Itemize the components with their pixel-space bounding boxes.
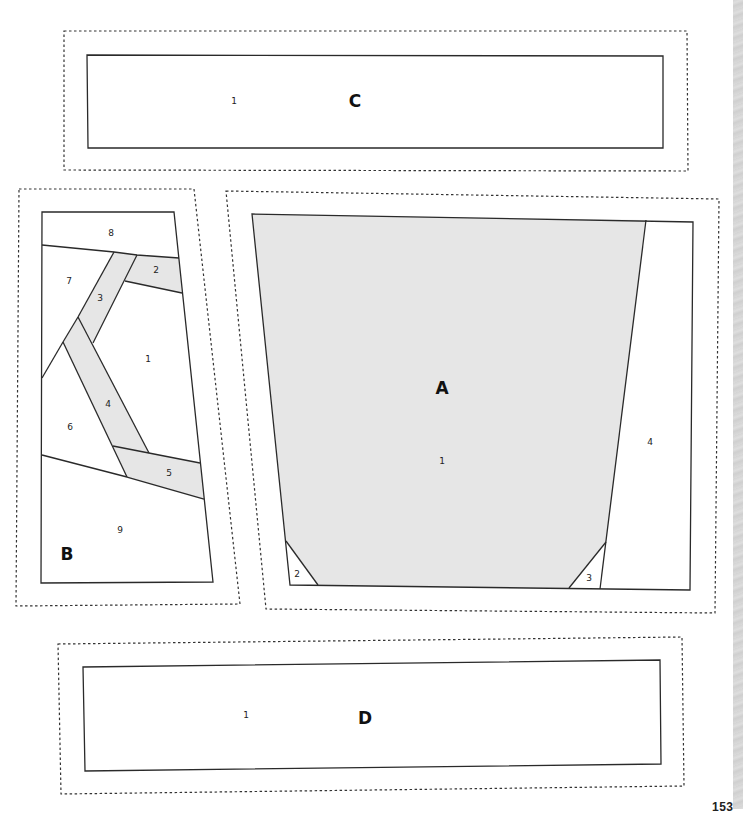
section-b: 1 2 3 4 5 6 7 8 9 B bbox=[16, 189, 240, 606]
section-b-piece-9-label: 9 bbox=[117, 525, 123, 535]
section-b-piece-4-label: 4 bbox=[105, 399, 111, 409]
section-c-piece-1-outline bbox=[87, 55, 663, 148]
page-number: 153 bbox=[712, 800, 734, 814]
section-d: 1 D bbox=[58, 637, 684, 794]
section-a-piece-1-fill bbox=[252, 214, 646, 588]
section-a: A 1 2 3 4 bbox=[226, 191, 719, 613]
section-b-piece-6-label: 6 bbox=[67, 422, 73, 432]
section-b-seam-allowance bbox=[16, 189, 240, 606]
section-c-piece-1-label: 1 bbox=[231, 96, 237, 106]
section-b-piece-5-fill bbox=[113, 446, 204, 499]
section-b-piece-8-label: 8 bbox=[108, 228, 114, 238]
section-b-piece-3-label: 3 bbox=[97, 293, 103, 303]
section-c-seam-allowance bbox=[64, 31, 688, 171]
section-b-piece-7-label: 7 bbox=[66, 276, 72, 286]
section-d-piece-1-label: 1 bbox=[243, 710, 249, 720]
section-a-piece-1-label: 1 bbox=[439, 456, 445, 466]
section-b-piece-1-label: 1 bbox=[145, 354, 151, 364]
section-a-piece-3-label: 3 bbox=[586, 573, 592, 583]
section-b-letter: B bbox=[61, 544, 74, 564]
section-b-seam-8 bbox=[42, 245, 179, 258]
section-b-seam-7 bbox=[42, 342, 63, 378]
section-b-piece-2-label: 2 bbox=[153, 265, 159, 275]
section-a-piece-4-label: 4 bbox=[647, 437, 653, 447]
section-b-seam-9 bbox=[42, 455, 127, 477]
section-a-piece-2-label: 2 bbox=[294, 569, 300, 579]
section-c: 1 C bbox=[64, 31, 688, 171]
section-b-piece-3-fill bbox=[78, 252, 137, 343]
section-a-letter: A bbox=[435, 378, 449, 398]
section-d-letter: D bbox=[358, 708, 372, 728]
section-c-letter: C bbox=[349, 91, 361, 111]
section-b-piece-5-label: 5 bbox=[166, 468, 172, 478]
